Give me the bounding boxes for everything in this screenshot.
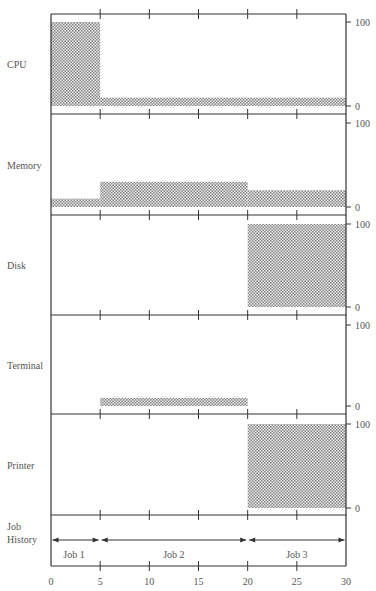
panel-memory: 1000Memory — [7, 109, 370, 215]
panel-label: CPU — [7, 59, 27, 70]
arrow-left-icon — [102, 538, 108, 543]
panel-label: Printer — [7, 460, 35, 471]
y-tick-label: 0 — [355, 202, 360, 213]
job-span: Job 3 — [249, 538, 344, 561]
panel-label: Terminal — [7, 360, 43, 371]
panels: 1000CPU1000Memory1000Disk1000Terminal100… — [7, 9, 370, 515]
utilization-bar — [51, 22, 100, 106]
x-tick-label: 10 — [144, 576, 154, 587]
y-tick-label: 100 — [355, 118, 370, 129]
job-span: Job 2 — [102, 538, 247, 561]
job-history-label: History — [7, 534, 37, 545]
y-tick-label: 100 — [355, 320, 370, 331]
y-tick-label: 0 — [355, 503, 360, 514]
utilization-bar — [248, 424, 346, 508]
job-label: Job 1 — [63, 549, 84, 560]
y-tick-label: 0 — [355, 401, 360, 412]
x-axis: 051015202530 — [49, 561, 352, 587]
job-label: Job 3 — [286, 549, 307, 560]
arrow-right-icon — [240, 538, 246, 543]
x-tick-label: 30 — [341, 576, 351, 587]
y-tick-label: 100 — [355, 419, 370, 430]
y-tick-label: 100 — [355, 17, 370, 28]
panel-disk: 1000Disk — [7, 210, 370, 315]
panel-label: Disk — [7, 260, 26, 271]
y-tick-label: 100 — [355, 219, 370, 230]
job-history-label: Job — [7, 521, 21, 532]
job-history-panel: JobHistoryJob 1Job 2Job 3 — [7, 510, 346, 566]
panel-printer: 1000Printer — [7, 409, 370, 515]
arrow-right-icon — [93, 538, 99, 543]
x-tick-label: 25 — [292, 576, 302, 587]
arrow-left-icon — [53, 538, 59, 543]
y-tick-label: 0 — [355, 101, 360, 112]
panel-label: Memory — [7, 160, 41, 171]
x-tick-label: 20 — [243, 576, 253, 587]
x-tick-label: 0 — [49, 576, 54, 587]
resource-utilization-chart: 1000CPU1000Memory1000Disk1000Terminal100… — [0, 0, 376, 591]
utilization-bar — [248, 190, 346, 207]
panel-terminal: 1000Terminal — [7, 310, 370, 414]
x-tick-label: 15 — [194, 576, 204, 587]
arrow-left-icon — [249, 538, 255, 543]
job-span: Job 1 — [53, 538, 99, 561]
arrow-right-icon — [339, 538, 345, 543]
utilization-bar — [248, 224, 346, 307]
job-label: Job 2 — [163, 549, 184, 560]
utilization-bar — [100, 98, 346, 106]
y-tick-label: 0 — [355, 302, 360, 313]
utilization-bar — [100, 182, 248, 207]
panel-cpu: 1000CPU — [7, 9, 370, 114]
utilization-bar — [100, 398, 248, 406]
x-tick-label: 5 — [98, 576, 103, 587]
utilization-bar — [51, 199, 100, 207]
